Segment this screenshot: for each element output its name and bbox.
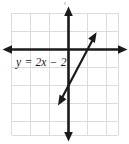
coordinate-plane: y = 2x − 2 xyxy=(0,0,129,144)
y-axis-arrow-down-icon xyxy=(64,132,73,142)
equation-label: y = 2x − 2 xyxy=(15,56,67,69)
graph-figure: y = 2x − 2 xyxy=(0,0,129,144)
print-speck xyxy=(64,2,66,5)
grid-lines xyxy=(12,13,119,135)
x-axis-arrow-right-icon xyxy=(118,45,128,54)
x-axis-arrow-left-icon xyxy=(3,45,13,54)
y-axis-arrow-up-icon xyxy=(64,7,73,17)
function-line xyxy=(58,32,97,105)
x-axis xyxy=(3,45,128,54)
